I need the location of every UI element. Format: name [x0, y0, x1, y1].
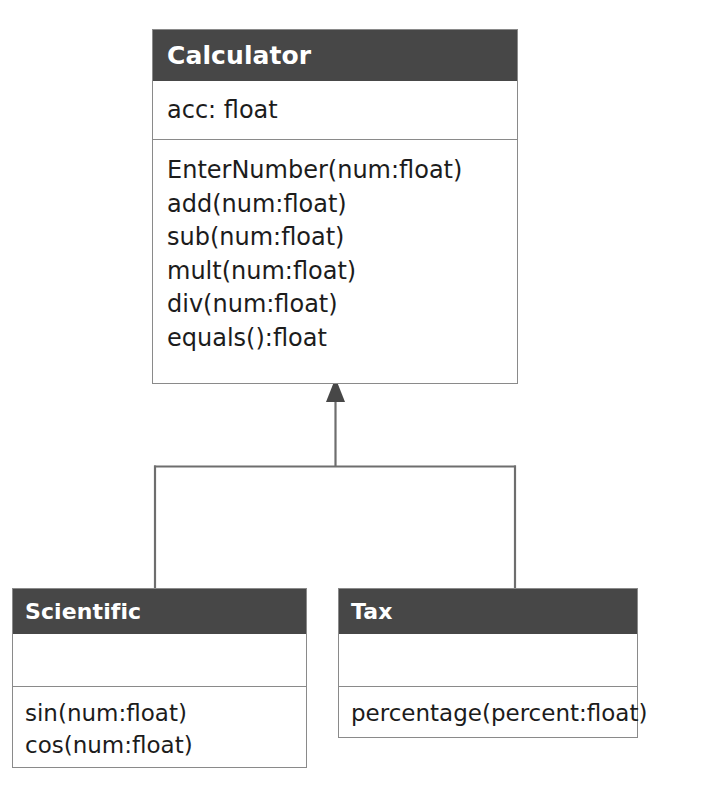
attribute-item: acc: float	[167, 95, 517, 125]
method-item: cos(num:float)	[25, 729, 306, 761]
attributes-compartment-tax	[339, 634, 637, 686]
class-name-calculator: Calculator	[153, 30, 517, 81]
method-item: add(num:float)	[167, 188, 517, 222]
methods-compartment-tax: percentage(percent:float)	[339, 686, 637, 737]
method-item: div(num:float)	[167, 288, 517, 322]
attributes-compartment-calculator: acc: float	[153, 81, 517, 139]
method-item: mult(num:float)	[167, 255, 517, 289]
class-name-scientific: Scientific	[13, 589, 306, 634]
method-item: sin(num:float)	[25, 697, 306, 729]
method-item: equals():float	[167, 322, 517, 356]
method-item: sub(num:float)	[167, 221, 517, 255]
class-box-scientific[interactable]: Scientific sin(num:float) cos(num:float)	[12, 588, 307, 768]
uml-class-diagram: Calculator acc: float EnterNumber(num:fl…	[0, 0, 720, 791]
class-box-calculator[interactable]: Calculator acc: float EnterNumber(num:fl…	[152, 29, 518, 384]
method-item: EnterNumber(num:float)	[167, 154, 517, 188]
methods-compartment-scientific: sin(num:float) cos(num:float)	[13, 686, 306, 767]
methods-compartment-calculator: EnterNumber(num:float) add(num:float) su…	[153, 139, 517, 383]
method-item: percentage(percent:float)	[351, 697, 637, 729]
class-box-tax[interactable]: Tax percentage(percent:float)	[338, 588, 638, 738]
class-name-tax: Tax	[339, 589, 637, 634]
attributes-compartment-scientific	[13, 634, 306, 686]
